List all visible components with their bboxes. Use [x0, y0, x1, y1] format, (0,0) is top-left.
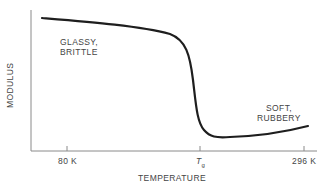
x-tick-label-80k: 80 K [58, 156, 77, 166]
modulus-temperature-diagram: MODULUS GLASSY, BRITTLE SOFT, RUBBERY 80… [0, 0, 333, 188]
annotation-glassy-line1: GLASSY, [60, 37, 98, 47]
annotation-glassy-line2: BRITTLE [60, 47, 98, 57]
chart-canvas [0, 0, 333, 188]
x-tick-label-tg: Tg [196, 156, 205, 170]
tg-subscript: g [202, 162, 206, 168]
y-axis-label: MODULUS [5, 63, 15, 108]
annotation-soft-line2: RUBBERY [257, 113, 301, 123]
x-axis-label: TEMPERATURE [138, 173, 206, 183]
annotation-soft-line1: SOFT, [266, 103, 292, 113]
x-tick-label-296k: 296 K [292, 156, 316, 166]
